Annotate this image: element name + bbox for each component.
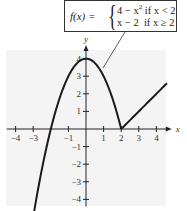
x-tick-label: 4: [154, 133, 159, 143]
y-tick-label: −3: [71, 177, 81, 187]
x-tick-label: −4: [11, 133, 21, 143]
y-tick-label: −4: [71, 194, 81, 204]
case-1: 4 − x2 if x < 2: [117, 3, 176, 16]
y-tick-label: −1: [71, 142, 81, 152]
function-lhs: f(x) =: [70, 10, 95, 22]
x-axis-arrow-icon: [166, 127, 172, 132]
x-axis-label: x: [175, 124, 180, 134]
x-tick-label: 2: [119, 133, 124, 143]
y-axis-arrow-icon: [84, 45, 89, 51]
formula-box: f(x) = { 4 − x2 if x < 2 x − 2 if x ≥ 2: [64, 0, 177, 32]
y-axis-label: y: [83, 34, 88, 44]
case-2: x − 2 if x ≥ 2: [117, 17, 174, 28]
x-tick-label: 1: [101, 133, 106, 143]
y-tick-label: 3: [77, 71, 82, 81]
x-tick-label: −3: [28, 133, 38, 143]
x-tick-label: 3: [137, 133, 142, 143]
brace-icon: {: [108, 0, 117, 30]
y-tick-label: −2: [71, 159, 81, 169]
y-tick-label: 2: [77, 89, 82, 99]
y-tick-label: 1: [77, 106, 82, 116]
